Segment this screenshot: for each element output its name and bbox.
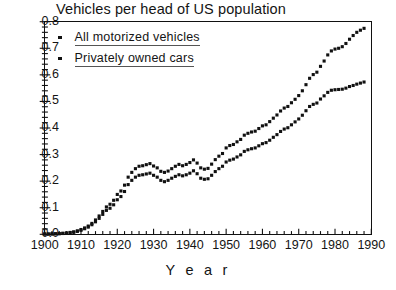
legend-item-all-motorized-vehicles[interactable]: All motorized vehicles [58,27,200,48]
y-axis-tick-label: 0.1 [19,200,59,214]
y-axis-tick-label: 0.2 [19,173,59,187]
x-axis-title: Y e a r [0,262,396,278]
chart-legend: All motorized vehicles Privately owned c… [58,27,200,69]
y-axis-tick-label: 0.7 [19,40,59,54]
y-axis-tick-label: 0.6 [19,67,59,81]
y-axis-tick-label: 0.3 [19,147,59,161]
legend-item-label: Privately owned cars [75,51,194,67]
y-axis-tick-label: 0.4 [19,120,59,134]
legend-marker-icon [58,36,62,40]
chart-figure: Vehicles per head of US population All m… [0,0,396,290]
legend-marker-icon [58,57,62,61]
legend-item-label: All motorized vehicles [75,30,200,46]
y-axis-tick-label: 0.8 [19,14,59,28]
y-axis-tick-label: 0.5 [19,93,59,107]
x-axis-tick-label: 1990 [348,238,394,252]
legend-item-privately-owned-cars[interactable]: Privately owned cars [58,48,200,69]
